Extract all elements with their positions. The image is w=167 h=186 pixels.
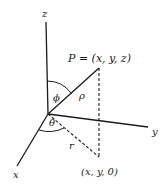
phi-label: ϕ	[53, 92, 60, 103]
rho-label: ρ	[78, 90, 85, 101]
r-label: r	[69, 140, 75, 151]
z-axis-label: z	[41, 8, 48, 19]
theta-label: θ	[49, 117, 55, 128]
y-axis-label: y	[151, 126, 158, 137]
rho-line	[48, 68, 99, 114]
point-p-label: P = (x, y, z)	[67, 52, 131, 65]
spherical-coordinates-diagram: z x y P = (x, y, z) (x, y, 0) ρ r ϕ θ	[0, 0, 167, 186]
x-axis	[17, 114, 48, 166]
theta-arc	[39, 128, 64, 132]
z-axis	[46, 22, 48, 114]
x-axis-label: x	[13, 169, 19, 180]
projection-label: (x, y, 0)	[81, 166, 118, 177]
y-axis	[48, 114, 148, 127]
